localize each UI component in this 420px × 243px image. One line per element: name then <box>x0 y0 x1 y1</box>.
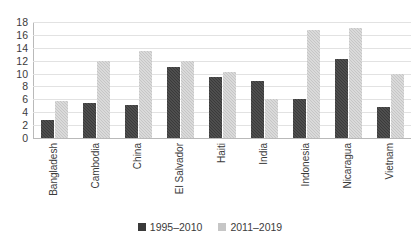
legend-label: 2011–2019 <box>230 222 282 233</box>
x-axis-label-cell: Haiti <box>201 141 243 213</box>
legend-item[interactable]: 1995–2010 <box>138 222 203 233</box>
bar[interactable] <box>335 59 348 138</box>
bar[interactable] <box>139 51 152 138</box>
legend-swatch-icon <box>138 223 146 231</box>
bar[interactable] <box>55 101 68 138</box>
x-axis-label-cell: Indonesia <box>285 141 327 213</box>
x-axis-label-cell: Bangladesh <box>33 141 75 213</box>
y-tick-label: 10 <box>16 68 28 79</box>
bar[interactable] <box>125 105 138 139</box>
bar[interactable] <box>41 120 54 138</box>
bar-group <box>243 22 285 138</box>
bar-group <box>369 22 411 138</box>
x-axis-label-cell: Nicaragua <box>327 141 369 213</box>
bar-group <box>327 22 369 138</box>
bar[interactable] <box>209 77 222 138</box>
x-axis-label: Cambodia <box>91 143 101 189</box>
y-tick-label: 12 <box>16 55 28 66</box>
x-axis-label: Haiti <box>217 143 227 163</box>
legend-label: 1995–2010 <box>150 222 203 233</box>
bar[interactable] <box>307 30 320 138</box>
bar[interactable] <box>349 28 362 138</box>
chart-legend: 1995–20102011–2019 <box>0 222 420 233</box>
x-axis-label-cell: China <box>117 141 159 213</box>
bar[interactable] <box>223 72 236 138</box>
bar-group <box>75 22 117 138</box>
bar[interactable] <box>293 99 306 138</box>
y-tick-label: 14 <box>16 43 28 54</box>
x-axis-label: El Salvador <box>175 143 185 194</box>
x-axis-labels: BangladeshCambodiaChinaEl SalvadorHaitiI… <box>33 141 411 213</box>
x-axis-label: Indonesia <box>301 143 311 186</box>
bar-group <box>117 22 159 138</box>
bar[interactable] <box>391 74 404 138</box>
y-tick-label: 6 <box>22 94 28 105</box>
x-axis-label: Bangladesh <box>49 143 59 196</box>
x-axis-label-cell: Cambodia <box>75 141 117 213</box>
bar-group <box>201 22 243 138</box>
bar[interactable] <box>83 103 96 138</box>
x-axis-label: India <box>259 143 269 165</box>
x-axis-label-cell: Vietnam <box>369 141 411 213</box>
bar-chart: 181614121086420 BangladeshCambodiaChinaE… <box>0 0 420 243</box>
gridline <box>33 138 411 139</box>
bar-groups <box>33 22 411 138</box>
bar[interactable] <box>97 61 110 138</box>
bar[interactable] <box>377 107 390 138</box>
x-axis-label: China <box>133 143 143 169</box>
bar[interactable] <box>167 67 180 138</box>
x-axis-label: Vietnam <box>385 143 395 180</box>
y-tick-label: 18 <box>16 17 28 28</box>
y-tick-label: 0 <box>22 133 28 144</box>
legend-swatch-icon <box>218 223 226 231</box>
bar-group <box>159 22 201 138</box>
y-tick-label: 8 <box>22 81 28 92</box>
x-axis-label: Nicaragua <box>343 143 353 189</box>
bar-group <box>33 22 75 138</box>
y-tick-label: 4 <box>22 107 28 118</box>
bar[interactable] <box>251 81 264 138</box>
x-axis-label-cell: El Salvador <box>159 141 201 213</box>
bar[interactable] <box>181 61 194 138</box>
x-axis-label-cell: India <box>243 141 285 213</box>
y-tick-label: 16 <box>16 30 28 41</box>
legend-item[interactable]: 2011–2019 <box>218 222 282 233</box>
bar[interactable] <box>265 99 278 138</box>
y-tick-label: 2 <box>22 120 28 131</box>
bar-group <box>285 22 327 138</box>
